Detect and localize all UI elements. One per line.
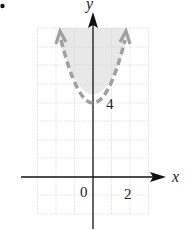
origin-label: 0 bbox=[80, 184, 88, 200]
y-tick-4-label: 4 bbox=[106, 96, 114, 112]
inequality-graph: y x 0 2 4 bbox=[0, 0, 193, 230]
y-axis-label: y bbox=[84, 0, 94, 13]
x-tick-2-label: 2 bbox=[124, 186, 132, 202]
x-axis-label: x bbox=[171, 168, 179, 185]
bullet-marker bbox=[0, 4, 4, 8]
